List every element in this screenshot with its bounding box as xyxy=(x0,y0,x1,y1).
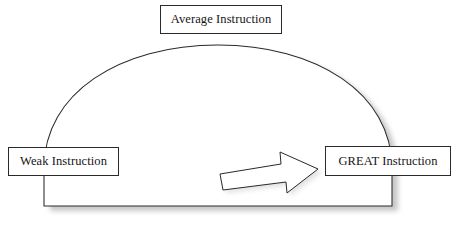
node-weak-instruction-label: Weak Instruction xyxy=(20,154,107,169)
node-great-instruction-label: GREAT Instruction xyxy=(338,154,437,169)
dome-shape xyxy=(44,45,392,206)
diagram-canvas: Average Instruction Weak Instruction GRE… xyxy=(0,0,459,228)
node-weak-instruction[interactable]: Weak Instruction xyxy=(8,147,119,176)
node-average-instruction[interactable]: Average Instruction xyxy=(160,5,282,34)
node-great-instruction[interactable]: GREAT Instruction xyxy=(325,146,451,176)
node-average-instruction-label: Average Instruction xyxy=(171,12,272,27)
diagram-graphics xyxy=(0,0,459,228)
